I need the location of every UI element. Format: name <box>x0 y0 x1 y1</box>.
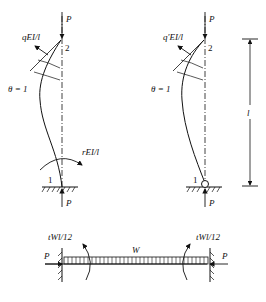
left-top-node-label: 2 <box>65 43 70 53</box>
right-top-moment-arrow <box>178 46 191 55</box>
diagram-canvas: P 2 qEI/l θ = 1 rEI/l 1 P <box>0 0 266 302</box>
right-top-moment-label: q′EI/l <box>163 32 183 42</box>
left-top-moment-label: qEI/l <box>22 32 40 42</box>
right-top-node-label: 2 <box>208 43 213 53</box>
structural-diagram: P 2 qEI/l θ = 1 rEI/l 1 P <box>0 0 266 302</box>
left-top-moment-arrow <box>35 46 48 55</box>
left-deflected-shape <box>40 40 62 187</box>
beam-right-moment-label: tWl/12 <box>196 232 220 242</box>
right-column: P 2 q′EI/l θ = 1 1 P <box>151 12 222 208</box>
left-bottom-node-label: 1 <box>48 175 53 185</box>
beam-load-label: W <box>132 245 141 255</box>
left-bottom-load-label: P <box>65 198 72 208</box>
left-top-load-label: P <box>65 14 72 24</box>
right-top-load-label: P <box>208 14 215 24</box>
pin-icon <box>202 181 209 188</box>
fixed-support <box>42 187 78 192</box>
right-bottom-load-label: P <box>208 198 215 208</box>
beam-right-axial-label: P <box>221 251 228 261</box>
left-bottom-moment-arrow <box>40 159 82 170</box>
right-bottom-node-label: 1 <box>193 175 198 185</box>
beam: W P P tWl/12 tWl/12 <box>43 232 228 282</box>
length-dimension: l <box>242 39 258 186</box>
pinned-support <box>186 181 222 193</box>
right-rotation-label: θ = 1 <box>151 84 171 94</box>
left-column: P 2 qEI/l θ = 1 rEI/l 1 P <box>8 12 99 208</box>
beam-left-axial-label: P <box>43 251 50 261</box>
right-deflected-shape <box>182 40 205 183</box>
left-rotation-label: θ = 1 <box>8 84 28 94</box>
beam-left-moment-label: tWl/12 <box>48 232 72 242</box>
left-bottom-moment-label: rEI/l <box>82 147 99 157</box>
